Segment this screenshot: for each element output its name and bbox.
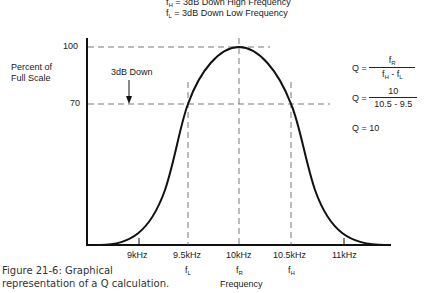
marker-fr-sub: R [239,270,243,276]
y-axis-label-line1: Percent of [11,62,52,73]
formula-q-general: Q = fR fH - fL [352,55,415,80]
marker-fh: fH [288,265,295,276]
formula-q-result: Q = 10 [352,123,379,133]
fraction-values-num: 10 [369,86,417,98]
den1-b-sub: L [399,74,402,80]
x-axis-label: Frequency [220,279,263,289]
marker-fh-sub: H [291,270,295,276]
fraction-general-den: fH - fL [369,68,415,80]
x-tick-10khz: 10kHz [226,250,252,260]
den1-op: - [389,69,397,79]
caption-line1: Figure 21-6: Graphical [2,264,169,277]
x-tick-9-5khz: 9.5kHz [173,250,201,260]
marker-fr: fR [236,265,243,276]
y-tick-100: 100 [63,41,78,51]
x-tick-11khz: 11kHz [332,250,357,260]
formula-q-values: Q = 10 10.5 - 9.5 [352,86,417,109]
x-tick-9khz: 9kHz [127,250,148,260]
fraction-general: fR fH - fL [369,55,415,80]
marker-fl-sub: L [188,270,191,276]
marker-fl: fL [185,265,191,276]
y-axis-label-line2: Full Scale [11,73,52,84]
fraction-general-num: fR [369,55,415,68]
three-db-down-label: 3dB Down [111,67,153,77]
num1-sub: R [391,60,395,66]
q-eq-1: Q = [352,63,367,73]
figure-caption: Figure 21-6: Graphical representation of… [2,264,169,290]
y-tick-70: 70 [70,98,80,108]
y-axis-label: Percent of Full Scale [11,62,52,84]
x-tick-10-5khz: 10.5kHz [273,250,306,260]
fraction-values: 10 10.5 - 9.5 [369,86,417,109]
q-eq-2: Q = [352,93,367,103]
caption-line2: representation of a Q calculation. [2,277,169,290]
fraction-values-den: 10.5 - 9.5 [369,98,417,109]
arrow-down-icon [126,96,132,104]
